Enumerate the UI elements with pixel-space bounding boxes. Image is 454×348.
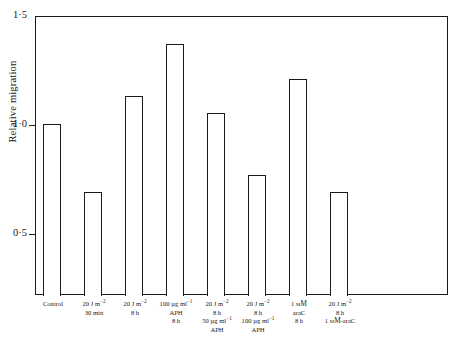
bar-0	[43, 124, 61, 296]
y-axis-title: Relative migration	[7, 37, 18, 167]
bar-6	[289, 79, 307, 296]
y-tick-label: 1·5	[13, 9, 27, 20]
x-axis-label-7: 20 J m−28 h1 mM-araC	[310, 300, 370, 326]
plot-frame	[35, 16, 448, 295]
bar-3	[166, 44, 184, 296]
unit-smallcaps: mM	[296, 300, 307, 308]
bar-7	[330, 192, 348, 296]
unit-smallcaps: mM	[330, 317, 341, 325]
exponent: −2	[346, 298, 352, 304]
y-tick-label: 0·5	[13, 227, 27, 238]
y-tick-label: 1·0	[13, 118, 27, 129]
x-label-line: APH	[228, 326, 288, 335]
bar-2	[125, 96, 143, 296]
x-label-line: 20 J m−2	[310, 300, 370, 309]
bar-5	[248, 175, 266, 296]
bar-4	[207, 113, 225, 296]
x-label-line: 1 mM-araC	[310, 317, 370, 326]
bar-1	[84, 192, 102, 296]
x-label-line: 8 h	[310, 309, 370, 318]
bar-chart-figure: Relative migration 1·51·00·5 Control20 J…	[0, 0, 454, 348]
